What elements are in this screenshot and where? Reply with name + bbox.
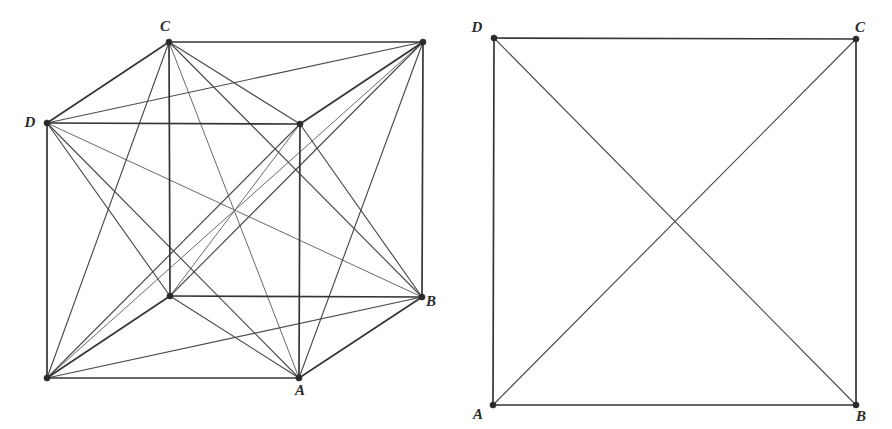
cube-edge	[169, 42, 170, 296]
vertex-label-d: D	[471, 19, 483, 35]
vertex-label-a: A	[472, 406, 483, 422]
vertex-dot	[166, 39, 172, 45]
vertex-dot	[44, 375, 50, 381]
cube-edge	[47, 123, 300, 124]
cube-edge	[170, 296, 422, 297]
figure-background	[0, 0, 892, 429]
vertex-dot	[491, 35, 497, 41]
vertex-label-c: C	[855, 19, 866, 35]
vertex-label-d: D	[24, 114, 36, 130]
vertex-dot	[490, 402, 496, 408]
cube-edge	[299, 124, 300, 378]
vertex-dot	[296, 375, 302, 381]
vertex-dot	[853, 36, 859, 42]
vertex-dot	[419, 294, 425, 300]
vertex-dot	[420, 39, 426, 45]
figure-container: DACB ABCD	[0, 0, 892, 429]
vertex-label-b: B	[425, 293, 436, 309]
square-edge	[493, 38, 494, 405]
vertex-dot	[297, 121, 303, 127]
vertex-label-a: A	[294, 382, 305, 398]
vertex-label-b: B	[855, 408, 866, 424]
figure-canvas: DACB ABCD	[0, 0, 892, 429]
cube-edge	[422, 42, 423, 297]
vertex-dot	[167, 293, 173, 299]
square-edge	[494, 38, 856, 39]
vertex-dot	[44, 120, 50, 126]
vertex-label-c: C	[160, 18, 171, 34]
